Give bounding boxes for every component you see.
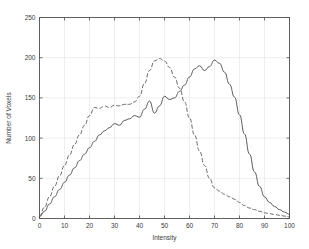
y-tick-label: 250: [25, 14, 36, 21]
x-tick-label: 80: [236, 222, 244, 229]
y-axis-title: Number of Voxels: [5, 92, 12, 144]
y-tick-label: 100: [25, 135, 36, 142]
y-tick-label: 200: [25, 54, 36, 61]
x-tick-label: 60: [186, 222, 194, 229]
x-tick-label: 10: [61, 222, 69, 229]
chart-background: [0, 0, 309, 249]
x-tick-label: 0: [38, 222, 42, 229]
x-tick-label: 100: [284, 222, 295, 229]
x-tick-label: 40: [136, 222, 144, 229]
figure-container: 0102030405060708090100050100150200250 In…: [0, 0, 309, 249]
y-tick-label: 0: [32, 215, 36, 222]
x-axis-title: Intensity: [152, 234, 177, 242]
x-tick-label: 30: [111, 222, 119, 229]
histogram-chart: 0102030405060708090100050100150200250 In…: [0, 0, 309, 249]
y-tick-label: 150: [25, 94, 36, 101]
x-tick-label: 20: [86, 222, 94, 229]
x-tick-label: 70: [211, 222, 219, 229]
x-tick-label: 50: [161, 222, 169, 229]
x-tick-label: 90: [261, 222, 269, 229]
y-tick-label: 50: [28, 175, 36, 182]
